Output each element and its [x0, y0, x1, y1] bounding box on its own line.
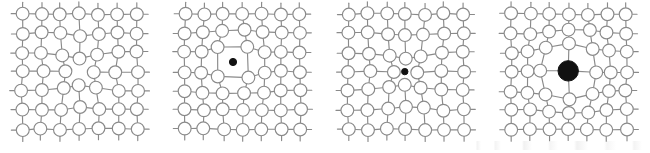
- host-atom: [456, 84, 469, 97]
- host-atom: [361, 7, 374, 20]
- lattice-bond: [590, 100, 591, 106]
- host-atom: [274, 104, 287, 117]
- lattice-bond: [86, 108, 92, 109]
- host-atom: [16, 7, 29, 20]
- host-atom: [620, 27, 633, 40]
- lattice-bond: [29, 33, 35, 34]
- lattice-bond: [116, 58, 117, 66]
- host-atom: [35, 26, 48, 39]
- lattice-bond: [595, 111, 601, 112]
- lattice-bond: [42, 77, 43, 83]
- host-atom: [112, 122, 125, 135]
- lattice-bond: [375, 54, 383, 55]
- host-atom: [34, 122, 47, 135]
- host-atom: [294, 84, 307, 97]
- lattice-bond: [534, 49, 540, 50]
- host-atom: [178, 85, 191, 98]
- bond-layer: [10, 2, 150, 142]
- host-atom: [543, 105, 556, 118]
- host-atom: [130, 45, 143, 58]
- host-atom: [216, 24, 229, 37]
- host-atom: [562, 23, 575, 36]
- host-atom: [563, 37, 576, 50]
- lattice-bond: [555, 112, 562, 113]
- panel-vacancy: [0, 0, 163, 153]
- panel-small-substitutional-impurity: [326, 0, 489, 153]
- host-atom: [619, 8, 632, 21]
- host-atom: [218, 123, 231, 136]
- host-atom: [619, 84, 632, 97]
- lattice-bond: [116, 79, 117, 85]
- host-atom: [381, 7, 394, 20]
- host-atom: [74, 30, 87, 43]
- lattice-bond: [594, 79, 596, 88]
- host-atom: [604, 66, 617, 79]
- host-atom: [236, 123, 249, 136]
- host-atom: [363, 47, 376, 60]
- lattice-bond: [537, 32, 543, 33]
- lattice-bond: [424, 71, 435, 72]
- host-atom: [399, 123, 412, 136]
- host-atom: [603, 44, 616, 57]
- host-atom: [258, 86, 271, 99]
- host-atom: [600, 104, 613, 117]
- host-atom: [275, 26, 288, 39]
- host-atom: [54, 26, 67, 39]
- host-atom: [54, 124, 67, 137]
- host-atom: [364, 65, 377, 78]
- host-atom: [362, 83, 375, 96]
- lattice-bond: [103, 53, 112, 54]
- host-atom: [380, 122, 393, 135]
- host-atom: [59, 65, 72, 78]
- host-atom: [562, 107, 575, 120]
- lattice-bond: [22, 78, 23, 85]
- lattice-bond: [61, 39, 62, 49]
- lattice-bond: [48, 89, 57, 90]
- host-atom: [216, 87, 229, 100]
- host-atom: [621, 123, 634, 136]
- host-atom: [274, 84, 287, 97]
- host-atom: [16, 47, 29, 60]
- lattice-bond: [86, 56, 91, 57]
- host-atom: [195, 66, 208, 79]
- host-atom: [539, 41, 552, 54]
- host-atom: [258, 66, 271, 79]
- host-atom: [382, 102, 395, 115]
- host-atom: [590, 66, 603, 79]
- host-atom: [274, 46, 287, 59]
- host-atom: [400, 100, 413, 113]
- host-atom: [132, 84, 145, 97]
- defect-atom-interstitial: [229, 58, 236, 65]
- host-atom: [524, 28, 537, 41]
- host-atom: [255, 123, 268, 136]
- host-atom: [179, 7, 192, 20]
- host-atom: [621, 66, 634, 79]
- host-atom: [111, 26, 124, 39]
- host-atom: [458, 103, 471, 116]
- lattice-bond: [223, 116, 224, 123]
- host-atom: [237, 103, 250, 116]
- host-atom: [342, 8, 355, 21]
- host-atom: [456, 45, 469, 58]
- host-atom: [414, 50, 427, 63]
- lattice-bond: [98, 40, 99, 48]
- host-atom: [620, 45, 633, 58]
- host-atom: [586, 88, 599, 101]
- host-atom: [435, 83, 448, 96]
- host-atom: [294, 26, 307, 39]
- host-atom: [112, 103, 125, 116]
- lattice-bond: [67, 34, 74, 35]
- host-atom: [523, 123, 536, 136]
- lattice-bond: [354, 90, 362, 91]
- host-atom: [112, 85, 125, 98]
- host-atom: [603, 85, 616, 98]
- host-atom: [16, 28, 29, 41]
- lattice-bond: [424, 114, 425, 124]
- lattice-bond: [442, 96, 443, 104]
- host-atom: [73, 52, 86, 65]
- host-atom: [417, 101, 430, 114]
- lattice-bond: [220, 83, 221, 88]
- host-atom: [504, 27, 517, 40]
- lattice-bond: [576, 95, 587, 98]
- lattice-bond: [536, 110, 542, 111]
